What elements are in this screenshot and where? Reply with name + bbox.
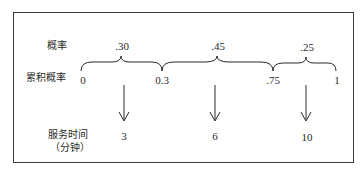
probability-value: .25 xyxy=(300,41,314,53)
probability-value: .45 xyxy=(211,40,225,52)
probability-value: .30 xyxy=(115,40,129,52)
brace-segment-2 xyxy=(162,56,273,71)
arrow-down-icon xyxy=(119,85,129,121)
service-time-value: 10 xyxy=(302,131,313,143)
cumulative-probability-row-label: 累积概率 xyxy=(26,72,66,84)
cumulative-tick-label: .75 xyxy=(266,74,280,86)
arrow-down-icon xyxy=(301,85,311,121)
service-time-row-label: 服务时间 xyxy=(48,129,88,141)
cumulative-tick-label: 1 xyxy=(334,74,340,86)
probability-row-label: 概率 xyxy=(47,40,67,52)
service-time-value: 3 xyxy=(121,130,127,142)
service-time-value: 6 xyxy=(212,130,218,142)
cumulative-tick-label: 0.3 xyxy=(155,74,169,86)
brace-segment-3 xyxy=(273,57,336,71)
arrow-down-icon xyxy=(210,85,220,121)
service-time-unit-label: （分钟） xyxy=(50,142,90,154)
brace-segment-1 xyxy=(81,56,162,71)
cumulative-tick-label: 0 xyxy=(80,74,86,86)
